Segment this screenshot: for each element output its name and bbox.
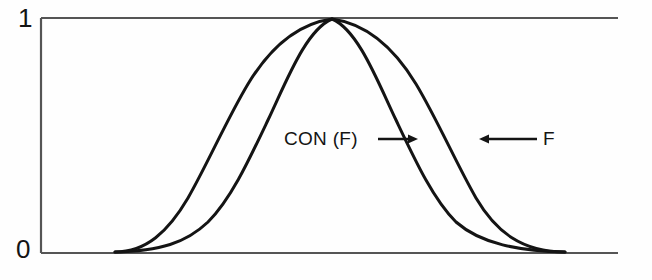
annotation-label-con-f: CON (F) — [284, 129, 358, 148]
figure-canvas: 1 0 CON (F) F — [0, 0, 652, 280]
right-arrow-icon — [378, 134, 418, 143]
left-arrow-icon — [479, 134, 537, 143]
y-axis-top-tick-label: 1 — [18, 5, 32, 31]
annotation-label-f: F — [543, 129, 555, 148]
y-axis-bottom-tick-label: 0 — [16, 236, 30, 262]
